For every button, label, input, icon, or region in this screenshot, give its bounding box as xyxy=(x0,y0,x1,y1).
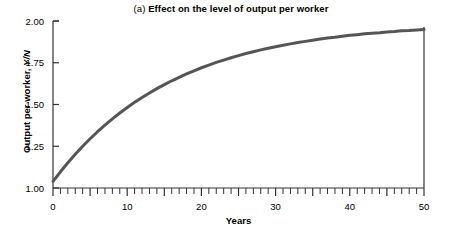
x-tick-label: 20 xyxy=(196,201,207,212)
data-line xyxy=(53,30,424,182)
x-tick-label: 0 xyxy=(50,201,55,212)
y-tick-label: 2.00 xyxy=(26,16,45,27)
figure-panel: (a) Effect on the level of output per wo… xyxy=(0,0,462,233)
x-tick-label: 40 xyxy=(345,201,356,212)
plot-area: 1.001.251.501.752.00 01020304050 xyxy=(0,0,462,233)
y-tick-label: 1.50 xyxy=(26,99,45,110)
axes-group xyxy=(53,21,424,196)
x-tick-label: 50 xyxy=(419,201,430,212)
y-tick-label: 1.75 xyxy=(26,57,45,68)
y-tick-label: 1.00 xyxy=(26,183,45,194)
data-series-group xyxy=(53,30,424,182)
x-tick-label: 10 xyxy=(122,201,133,212)
x-tick-label: 30 xyxy=(270,201,281,212)
x-tick-labels: 01020304050 xyxy=(50,201,429,212)
y-tick-label: 1.25 xyxy=(26,141,45,152)
y-tick-labels: 1.001.251.501.752.00 xyxy=(26,16,45,194)
